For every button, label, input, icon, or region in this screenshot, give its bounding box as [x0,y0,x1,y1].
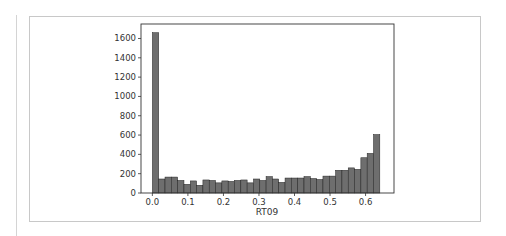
histogram-bar [152,33,158,193]
histogram-bar [159,179,165,193]
histogram-bar [285,178,291,193]
histogram-bar [241,180,247,193]
x-tick-label: 0.3 [252,197,266,207]
histogram-bar [203,180,209,193]
histogram-bar [178,180,184,193]
x-tick-label: 0.6 [359,197,373,207]
x-tick-label: 0.1 [181,197,195,207]
histogram-bar [279,182,285,193]
histogram-bar [304,177,310,193]
histogram-bar [190,181,196,193]
histogram-chart: 02004006008001000120014001600 0.00.10.20… [0,0,506,236]
x-tick-label: 0.2 [217,197,231,207]
histogram-bar [272,179,278,193]
x-tick-label: 0.0 [146,197,160,207]
histogram-bar [291,178,297,193]
histogram-bar [247,183,253,193]
histogram-bar [298,178,304,193]
y-tick-label: 1400 [114,53,136,63]
x-tick-label: 0.5 [323,197,337,207]
histogram-bar [310,179,316,193]
y-tick-label: 200 [120,169,136,179]
histogram-bar [336,170,342,193]
y-tick-label: 0 [131,188,136,198]
histogram-bar [253,179,259,193]
histogram-bars [152,33,379,193]
histogram-bar [373,135,379,193]
histogram-bar [342,170,348,193]
histogram-bar [228,181,234,193]
y-tick-label: 1000 [114,91,136,101]
histogram-bar [348,168,354,193]
axes-box [141,24,394,193]
histogram-bar [260,180,266,193]
histogram-bar [165,177,171,193]
histogram-bar [197,185,203,193]
y-tick-label: 400 [120,149,136,159]
y-axis-ticks: 02004006008001000120014001600 [114,33,141,198]
histogram-bar [209,180,215,193]
histogram-bar [216,183,222,193]
x-axis-ticks: 0.00.10.20.30.40.50.6 [146,193,373,207]
histogram-bar [222,181,228,193]
x-axis-label: RT09 [256,207,279,217]
x-tick-label: 0.4 [288,197,302,207]
histogram-bar [171,177,177,193]
histogram-bar [355,169,361,193]
y-tick-label: 800 [120,111,136,121]
histogram-bar [323,176,329,193]
histogram-bar [266,177,272,193]
histogram-bar [367,153,373,193]
y-tick-label: 1200 [114,72,136,82]
histogram-bar [235,180,241,193]
y-tick-label: 1600 [114,33,136,43]
histogram-bar [361,158,367,193]
histogram-bar [329,176,335,193]
histogram-bar [184,184,190,193]
histogram-bar [317,179,323,193]
y-tick-label: 600 [120,130,136,140]
